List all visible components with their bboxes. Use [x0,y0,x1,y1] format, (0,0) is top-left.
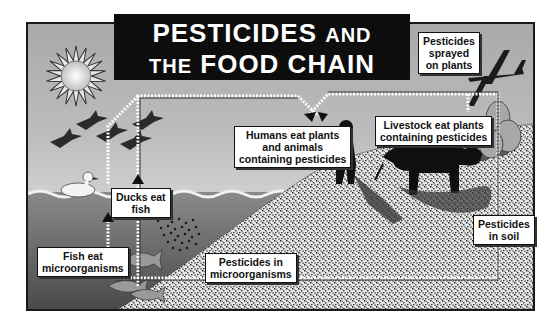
title-word-and: AND [325,24,371,46]
label-humans-eat: Humans eat plants and animals containing… [234,126,351,168]
title-line-1: PESTICIDES AND [114,19,410,49]
sun-icon [46,46,106,106]
label-line: containing pesticides [239,153,346,165]
label-line: Fish eat [42,250,124,262]
label-pesticides-soil: Pesticides in soil [473,215,535,245]
label-line: Pesticides [423,35,475,47]
label-line: on plants [423,59,475,71]
arrow-to-human-right [318,112,328,122]
label-line: Pesticides in [210,256,292,268]
duck-icon [61,172,99,197]
title-line-2: THE FOOD CHAIN [114,49,410,81]
label-pesticides-micro: Pesticides in microorganisms [205,253,297,283]
label-line: and animals [239,141,346,153]
label-fish-eat: Fish eat microorganisms [37,247,129,277]
title-word-food-chain: FOOD CHAIN [200,49,375,79]
label-line: Livestock eat plants [380,119,487,131]
label-line: Humans eat plants [239,129,346,141]
label-line: sprayed [423,47,475,59]
label-line: Pesticides [478,218,530,230]
label-line: in soil [478,230,530,242]
label-line: microorganisms [42,262,124,274]
title-word-the: THE [149,55,192,77]
label-ducks-eat-fish: Ducks eat fish [111,188,171,218]
arrow-to-human-left [304,112,316,122]
label-line: fish [116,203,166,215]
label-livestock-eat: Livestock eat plants containing pesticid… [375,116,492,146]
title-banner: PESTICIDES AND THE FOOD CHAIN [114,14,410,80]
title-word-pesticides: PESTICIDES [152,18,317,48]
arrow-to-ducks [132,174,144,184]
label-line: containing pesticides [380,131,487,143]
label-pesticides-sprayed: Pesticides sprayed on plants [418,32,480,74]
label-line: microorganisms [210,268,292,280]
label-line: Ducks eat [116,191,166,203]
